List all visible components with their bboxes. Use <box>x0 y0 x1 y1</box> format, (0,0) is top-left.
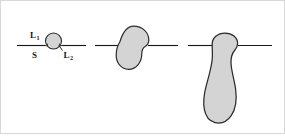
label-l2-base: L <box>64 50 70 60</box>
label-l1: L 1 <box>30 30 40 41</box>
figure-border <box>1 1 285 134</box>
panel-small-droplet: L 1 S L 2 <box>17 30 86 61</box>
label-l2-subscript: 2 <box>70 54 73 61</box>
label-l1-base: L <box>30 30 36 40</box>
blob-medium <box>116 26 149 69</box>
label-s-base: S <box>32 50 37 60</box>
panel-large-pendant <box>188 33 272 123</box>
membrane-droplet-figure: L 1 S L 2 <box>0 0 285 140</box>
blob-pendant-large <box>204 33 238 123</box>
label-l2: L 2 <box>64 50 74 61</box>
label-l1-subscript: 1 <box>37 34 40 41</box>
panel-medium-blob <box>95 26 178 69</box>
label-s: S <box>32 50 37 60</box>
figure-container: L 1 S L 2 <box>0 0 285 140</box>
droplet-circle <box>46 33 62 49</box>
